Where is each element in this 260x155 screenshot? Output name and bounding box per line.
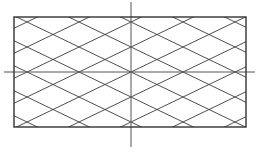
lattice-line — [4, 0, 256, 82]
lattice-line — [4, 136, 256, 155]
lattice-line — [4, 0, 256, 57]
diagonal-lattice-lines — [4, 0, 256, 155]
lattice-line — [4, 37, 256, 155]
lattice-line — [4, 62, 256, 155]
lattice-line — [4, 0, 256, 32]
lattice-diagram — [0, 0, 260, 155]
lattice-line — [4, 0, 256, 7]
diagram-canvas — [0, 0, 260, 155]
lattice-line — [4, 36, 256, 155]
lattice-line — [4, 0, 256, 8]
lattice-line — [4, 137, 256, 155]
lattice-line — [4, 111, 256, 155]
lattice-line — [4, 61, 256, 155]
lattice-line — [4, 112, 256, 155]
lattice-line — [4, 0, 256, 83]
lattice-line — [4, 0, 256, 107]
